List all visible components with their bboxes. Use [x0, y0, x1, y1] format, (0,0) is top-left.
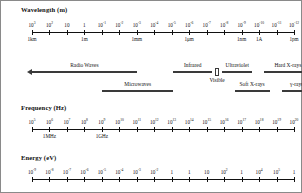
wavelength-tick-label: 10-12 [289, 23, 299, 28]
axis-tick [49, 30, 50, 35]
band-label: Hard X-rays [274, 63, 301, 68]
axis-tick [119, 177, 120, 182]
frequency-tick-label: 1017 [237, 120, 246, 125]
wavelength-tick-label: 10-10 [254, 23, 264, 28]
axis-tick [207, 30, 208, 35]
frequency-tick-label: 108 [81, 120, 88, 125]
frequency-tick-label: 109 [98, 120, 105, 125]
axis-tick [84, 177, 85, 182]
frequency-axis [32, 129, 294, 130]
frequency-axis-title: Frequency (Hz) [21, 104, 66, 111]
wavelength-unit-label: 1nm [237, 37, 246, 42]
frequency-unit-label: 1MHz [43, 134, 56, 139]
axis-tick [137, 30, 138, 35]
wavelength-tick-label: 10 [64, 23, 69, 28]
wavelength-unit-label: 1m [81, 37, 88, 42]
wavelength-tick-label: 10-2 [115, 23, 123, 28]
band-line [235, 90, 270, 92]
axis-tick [172, 127, 173, 132]
axis-tick [67, 30, 68, 35]
band-line [264, 71, 302, 73]
frequency-tick-label: 107 [63, 120, 70, 125]
axis-tick [172, 177, 173, 182]
wavelength-tick-label: 10-8 [220, 23, 228, 28]
axis-tick [49, 177, 50, 182]
energy-tick-label: 104 [256, 170, 263, 175]
wavelength-tick-label: 10-7 [203, 23, 211, 28]
frequency-tick-label: 1011 [132, 120, 141, 125]
axis-tick [277, 30, 278, 35]
axis-tick [102, 30, 103, 35]
band-label: γ-rays [290, 82, 302, 87]
visible-light-marker [215, 68, 219, 76]
axis-tick [67, 127, 68, 132]
axis-tick [137, 177, 138, 182]
axis-tick [67, 177, 68, 182]
wavelength-tick-label: 10-6 [185, 23, 193, 28]
axis-tick [224, 127, 225, 132]
axis-tick [172, 30, 173, 35]
axis-tick [242, 127, 243, 132]
axis-tick [119, 30, 120, 35]
axis-tick [119, 127, 120, 132]
frequency-tick-label: 1018 [255, 120, 264, 125]
axis-tick [102, 177, 103, 182]
frequency-unit-label: 1GHz [96, 134, 108, 139]
energy-tick-label: 10 [204, 170, 209, 175]
wavelength-tick-label: 1 [83, 23, 86, 28]
axis-tick [154, 127, 155, 132]
energy-tick-label: 10-5 [98, 170, 106, 175]
frequency-tick-label: 106 [46, 120, 53, 125]
band-line [102, 90, 174, 92]
arrow-left-icon [27, 69, 32, 75]
axis-tick [49, 127, 50, 132]
axis-tick [259, 127, 260, 132]
energy-tick-label: 10-2 [150, 170, 158, 175]
wavelength-unit-label: 1mm [131, 37, 142, 42]
frequency-tick-label: 1019 [272, 120, 281, 125]
frequency-tick-label: 1020 [290, 120, 299, 125]
frequency-tick-label: 1015 [202, 120, 211, 125]
axis-tick [137, 127, 138, 132]
axis-tick [32, 177, 33, 182]
wavelength-tick-label: 10-3 [133, 23, 141, 28]
frequency-tick-label: 1014 [185, 120, 194, 125]
axis-tick [294, 127, 295, 132]
band-label: Soft X-rays [240, 82, 265, 87]
wavelength-axis [32, 32, 294, 33]
axis-tick [277, 127, 278, 132]
wavelength-unit-label: 1km [27, 37, 36, 42]
wavelength-unit-label: 1pm [289, 37, 298, 42]
wavelength-tick-label: 10-9 [238, 23, 246, 28]
energy-tick-label: 1 [188, 170, 191, 175]
axis-tick [154, 30, 155, 35]
energy-tick-label: 10-8 [45, 170, 53, 175]
axis-tick [84, 30, 85, 35]
energy-axis [32, 179, 294, 180]
energy-tick-label: 102 [221, 170, 228, 175]
axis-tick [259, 177, 260, 182]
wavelength-tick-label: 103 [29, 23, 36, 28]
band-line [32, 71, 137, 73]
axis-tick [102, 127, 103, 132]
band-line [173, 71, 211, 73]
axis-tick [189, 177, 190, 182]
axis-tick [242, 177, 243, 182]
wavelength-unit-label: 1μm [184, 37, 193, 42]
energy-tick-label: 10-7 [63, 170, 71, 175]
em-spectrum-figure: Wavelength (m) Radio WavesInfraredUltrav… [0, 0, 302, 193]
axis-tick [277, 177, 278, 182]
frequency-tick-label: 1016 [220, 120, 229, 125]
axis-tick [259, 30, 260, 35]
axis-tick [207, 127, 208, 132]
axis-tick [224, 177, 225, 182]
energy-tick-label: 1 [293, 170, 296, 175]
frequency-tick-label: 105 [29, 120, 36, 125]
energy-tick-label: 105 [273, 170, 280, 175]
frequency-tick-label: 1013 [167, 120, 176, 125]
wavelength-tick-label: 10-11 [272, 23, 282, 28]
wavelength-tick-label: 10-4 [150, 23, 158, 28]
wavelength-unit-label: 1A [256, 37, 262, 42]
axis-tick [242, 30, 243, 35]
band-label: Radio Waves [70, 63, 98, 68]
